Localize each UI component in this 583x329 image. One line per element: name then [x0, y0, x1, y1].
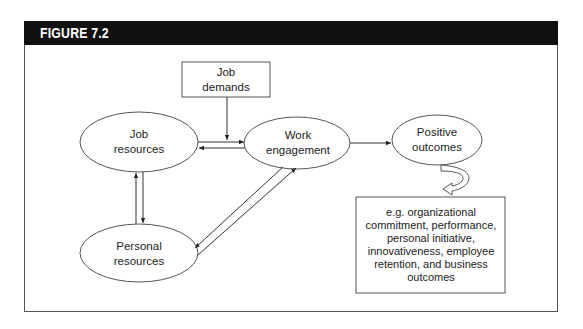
- node-job-resources: Job resources: [80, 112, 198, 172]
- node-work-engagement: Work engagement: [244, 117, 350, 169]
- arrow-engagement-to-personal: [195, 167, 283, 248]
- curved-arrow-icon: [441, 165, 469, 195]
- node-job-demands: Job demands: [182, 62, 270, 97]
- node-personal-resources: Personal resources: [80, 224, 198, 282]
- job-demands-label-1: Job: [217, 66, 236, 78]
- outcome-examples-line-2: commitment, performance,: [366, 219, 497, 231]
- outcome-examples-line-1: e.g. organizational: [386, 206, 476, 218]
- work-engagement-label-1: Work: [285, 129, 312, 141]
- positive-outcomes-label-2: outcomes: [412, 141, 462, 153]
- node-outcome-examples: e.g. organizational commitment, performa…: [356, 197, 505, 293]
- job-resources-label-2: resources: [114, 143, 165, 155]
- personal-resources-label-2: resources: [114, 255, 165, 267]
- outcome-examples-line-4: innovativeness, employee: [368, 245, 495, 257]
- job-demands-label-2: demands: [202, 81, 250, 93]
- outcome-examples-line-3: personal initiative,: [387, 232, 475, 244]
- arrow-personal-to-engagement: [198, 168, 296, 255]
- positive-outcomes-label-1: Positive: [417, 126, 457, 138]
- outcome-examples-line-6: outcomes: [407, 271, 455, 283]
- work-engagement-label-2: engagement: [266, 144, 331, 156]
- node-positive-outcomes: Positive outcomes: [392, 115, 482, 165]
- personal-resources-label-1: Personal: [116, 240, 161, 252]
- outcome-examples-line-5: retention, and business: [374, 258, 488, 270]
- diagram-canvas: Job demands Job resources Work engagemen…: [0, 0, 583, 329]
- job-resources-label-1: Job: [130, 128, 149, 140]
